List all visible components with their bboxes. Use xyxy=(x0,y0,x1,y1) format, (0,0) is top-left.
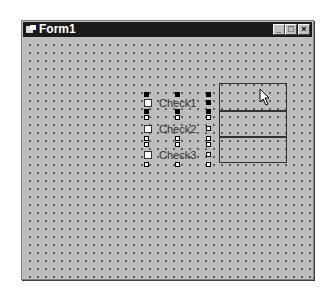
selection-handle[interactable] xyxy=(144,136,149,141)
selection-handle[interactable] xyxy=(206,115,211,120)
selection-handle[interactable] xyxy=(206,136,211,141)
selection-handle[interactable] xyxy=(144,115,149,120)
maximize-icon: □ xyxy=(288,24,293,34)
selection-handle[interactable] xyxy=(175,115,180,120)
selection-handle[interactable] xyxy=(206,126,211,131)
selection-handle[interactable] xyxy=(206,162,211,167)
close-icon: × xyxy=(301,24,306,34)
checkbox-label: Check1 xyxy=(159,97,196,110)
selection-handle[interactable] xyxy=(206,92,211,97)
minimize-icon: _ xyxy=(276,24,281,34)
maximize-button[interactable]: □ xyxy=(285,24,297,35)
selection-handle[interactable] xyxy=(144,142,149,147)
selection-handle[interactable] xyxy=(144,92,149,97)
selection-handle[interactable] xyxy=(144,109,149,114)
selection-handle[interactable] xyxy=(206,152,211,157)
selection-handle[interactable] xyxy=(175,142,180,147)
checkbox-box[interactable] xyxy=(144,151,152,159)
selection-handle[interactable] xyxy=(175,162,180,167)
minimize-button[interactable]: _ xyxy=(273,24,285,35)
frame-control[interactable] xyxy=(219,83,287,163)
checkbox-label: Check2 xyxy=(159,123,196,136)
form-client-area[interactable]: Check1 Check2 Check3 xyxy=(23,38,312,278)
window-title: Form1 xyxy=(39,22,76,37)
form-icon xyxy=(26,25,36,34)
title-bar[interactable]: Form1 _ □ × xyxy=(23,22,312,37)
selection-handle[interactable] xyxy=(206,109,211,114)
close-button[interactable]: × xyxy=(298,24,310,35)
checkbox-label: Check3 xyxy=(159,149,196,162)
selection-handle[interactable] xyxy=(175,136,180,141)
form-designer-window: Form1 _ □ × Check1 xyxy=(21,20,314,280)
checkbox-box[interactable] xyxy=(144,125,152,133)
selection-handle[interactable] xyxy=(206,142,211,147)
frame-divider xyxy=(220,136,286,138)
selection-handle[interactable] xyxy=(144,162,149,167)
mouse-cursor-icon xyxy=(259,88,271,106)
frame-divider xyxy=(220,110,286,112)
checkbox-box[interactable] xyxy=(144,99,152,107)
selection-handle[interactable] xyxy=(206,100,211,105)
